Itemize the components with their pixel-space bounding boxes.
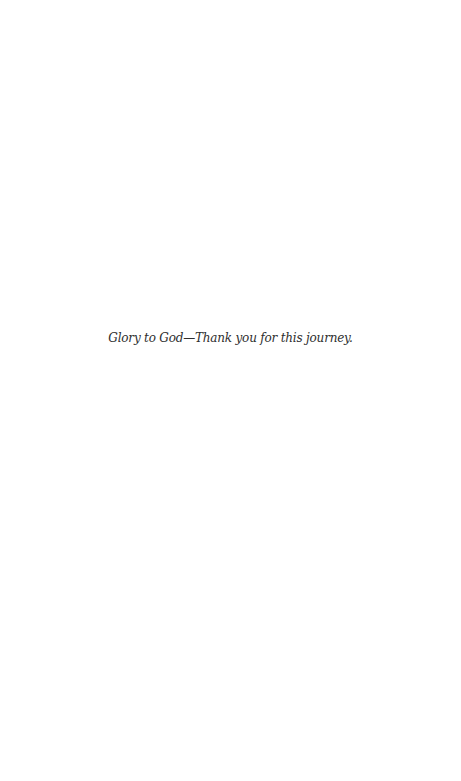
document-page: Glory to God—Thank you for this journey. — [0, 0, 461, 781]
dedication-text: Glory to God—Thank you for this journey. — [0, 329, 461, 347]
